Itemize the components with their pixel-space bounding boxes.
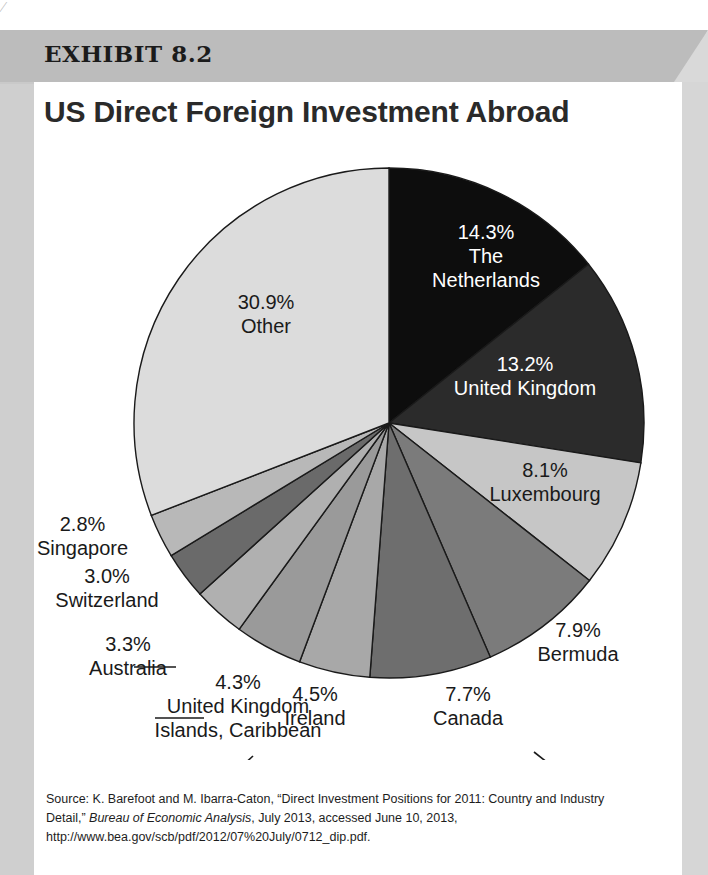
slice-pct-luxembourg: 8.1% [440, 458, 650, 482]
slice-name-united-kingdom: United Kingdom [420, 376, 630, 400]
slice-label-canada: 7.7% Canada [398, 682, 538, 730]
source-note-publication: Bureau of Economic Analysis [89, 811, 251, 825]
slice-name-canada: Canada [398, 706, 538, 730]
slice-name-singapore: Singapore [10, 536, 155, 560]
slice-name-bermuda: Bermuda [498, 642, 658, 666]
exhibit-page: ⁄ EXHIBIT 8.2 US Direct Foreign Investme… [0, 0, 708, 875]
slice-name-netherlands-line2: Netherlands [386, 268, 586, 292]
slice-name-australia: Australia [48, 656, 208, 680]
slice-label-uk-islands-caribbean: 4.3% United Kingdom Islands, Caribbean [88, 670, 388, 742]
slice-label-other: 30.9% Other [186, 290, 346, 338]
slice-name-other: Other [186, 314, 346, 338]
source-note: Source: K. Barefoot and M. Ibarra-Caton,… [46, 790, 646, 847]
slice-name-uk-islands-caribbean-line2: Islands, Caribbean [88, 718, 388, 742]
slice-label-bermuda: 7.9% Bermuda [498, 618, 658, 666]
slice-name-uk-islands-caribbean-line1: United Kingdom [88, 694, 388, 718]
slice-pct-canada: 7.7% [398, 682, 538, 706]
slice-name-switzerland: Switzerland [22, 588, 192, 612]
page-top-margin [0, 0, 708, 22]
slice-pct-other: 30.9% [186, 290, 346, 314]
slice-label-united-kingdom: 13.2% United Kingdom [420, 352, 630, 400]
slice-label-singapore: 2.8% Singapore [10, 512, 155, 560]
pie-chart: 14.3% The Netherlands 13.2% United Kingd… [0, 140, 708, 760]
page-title: US Direct Foreign Investment Abroad [44, 95, 569, 129]
slice-name-netherlands-line1: The [386, 244, 586, 268]
slice-label-netherlands: 14.3% The Netherlands [386, 220, 586, 292]
slice-pct-bermuda: 7.9% [498, 618, 658, 642]
slice-label-luxembourg: 8.1% Luxembourg [440, 458, 650, 506]
slice-pct-australia: 3.3% [48, 632, 208, 656]
slice-pct-united-kingdom: 13.2% [420, 352, 630, 376]
slice-label-switzerland: 3.0% Switzerland [22, 564, 192, 612]
scan-corner-mark: ⁄ [2, 0, 18, 16]
slice-label-australia: 3.3% Australia [48, 632, 208, 680]
slice-name-luxembourg: Luxembourg [440, 482, 650, 506]
slice-pct-netherlands: 14.3% [386, 220, 586, 244]
leader-line-bermuda [534, 752, 562, 760]
slice-pct-singapore: 2.8% [10, 512, 155, 536]
exhibit-label: EXHIBIT 8.2 [44, 40, 213, 67]
slice-pct-switzerland: 3.0% [22, 564, 192, 588]
leader-line-australia [205, 756, 253, 760]
